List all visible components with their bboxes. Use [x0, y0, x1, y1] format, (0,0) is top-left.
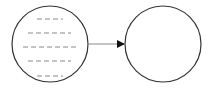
target-circle [125, 6, 201, 82]
source-circle [12, 6, 88, 82]
diagram-canvas [0, 0, 211, 89]
target-circle-node [125, 6, 201, 82]
source-circle-node [12, 6, 88, 82]
